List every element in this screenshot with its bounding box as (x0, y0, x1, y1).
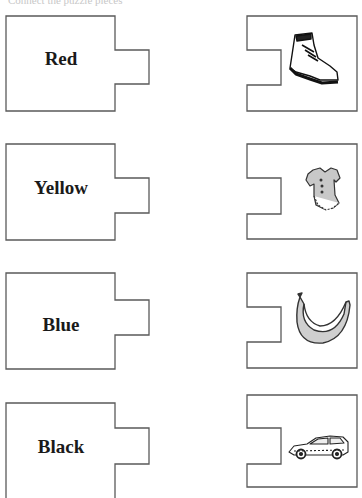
right-piece-2-outline (247, 144, 357, 239)
left-piece-2-word: Yellow (6, 177, 116, 199)
left-piece-1-word: Red (6, 48, 116, 70)
left-piece-4-word: Black (6, 436, 116, 458)
puzzle-board (0, 0, 362, 498)
left-piece-3-word: Blue (6, 314, 116, 336)
